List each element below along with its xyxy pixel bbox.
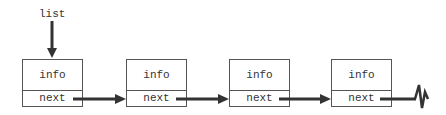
next-pointer-arrow-icon xyxy=(279,94,331,104)
next-pointer-arrow-icon xyxy=(176,94,229,104)
next-pointer-arrow-icon xyxy=(73,94,126,104)
null-terminator-icon xyxy=(380,85,428,108)
head-pointer-arrow-icon xyxy=(47,21,57,58)
pointer-arrows xyxy=(0,0,446,115)
linked-list-diagram: list info next info next info next info … xyxy=(0,0,446,115)
